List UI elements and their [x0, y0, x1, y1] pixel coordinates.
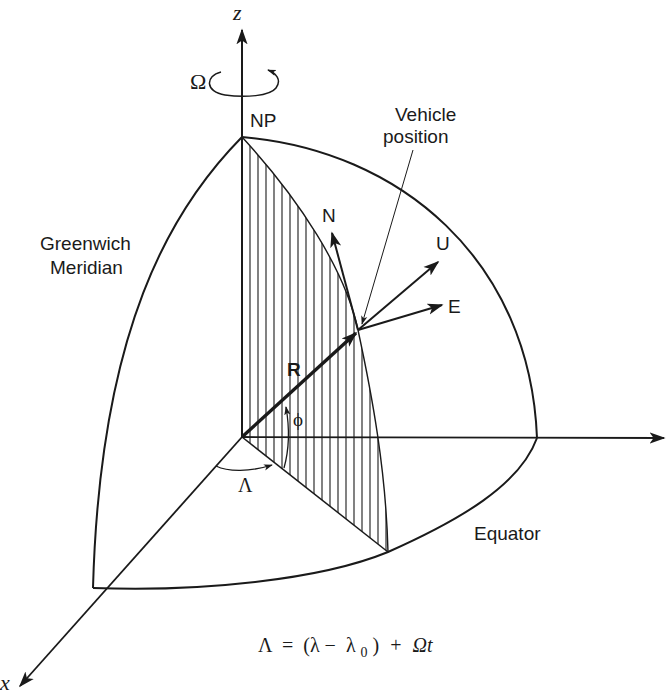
vehicle-position-label-line2: position [383, 126, 449, 147]
earth-frame-diagram: z y x Ω NP Vehicle position R N U E ϕ Λ … [0, 0, 672, 694]
equation-lhs: Λ [258, 634, 273, 656]
latitude-label: ϕ [293, 409, 303, 430]
z-axis-label: z [232, 0, 242, 25]
rotation-indicator: Ω [190, 69, 278, 96]
longitude-arc [216, 465, 272, 470]
equation-subscript: 0 [361, 645, 368, 660]
meridian-plane-base [242, 437, 388, 552]
equation-omega-t: Ωt [413, 634, 433, 656]
x-axis [20, 437, 242, 686]
longitude-equation: Λ = (λ − λ 0 ) + Ωt [258, 634, 433, 661]
east-vector [358, 305, 442, 330]
rotation-arrow-icon [209, 70, 278, 96]
equation-open: (λ − [303, 634, 336, 657]
y-meridian-arc [242, 137, 537, 438]
east-vector-label: E [448, 296, 461, 317]
equation-lambda0: λ [346, 634, 356, 656]
y-axis [242, 437, 664, 438]
vehicle-position-label-line1: Vehicle [395, 104, 456, 125]
equator-label: Equator [474, 523, 541, 544]
north-vector [332, 233, 358, 330]
up-vector-label: U [436, 233, 450, 254]
longitude-label: Λ [238, 474, 253, 496]
equation-equals: = [282, 634, 293, 656]
equation-plus: + [390, 634, 401, 656]
radius-vector-label: R [287, 359, 301, 380]
vehicle-meridian-arc [242, 137, 388, 552]
vehicle-pointer-line [362, 150, 413, 324]
meridian-plane-hatching [250, 120, 386, 600]
omega-label: Ω [190, 69, 206, 94]
svg-text:Λ = (λ − λ: Λ = (λ − λ 0 ) + Ωt [258, 634, 433, 661]
north-pole-label: NP [250, 110, 276, 131]
greenwich-meridian-label-line2: Meridian [50, 257, 123, 278]
equation-close: ) [373, 634, 380, 657]
equator-arc [93, 438, 537, 589]
north-vector-label: N [322, 205, 336, 226]
greenwich-meridian-label-line1: Greenwich [40, 233, 131, 254]
x-axis-label: x [0, 670, 10, 694]
